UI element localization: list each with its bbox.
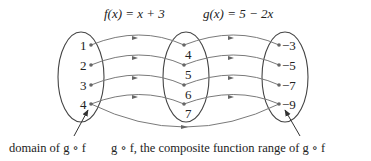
f-arrowheads xyxy=(132,36,138,99)
middle-value: 7 xyxy=(185,106,192,121)
range-value: −3 xyxy=(282,38,296,53)
domain-value: 1 xyxy=(80,38,87,53)
range-value: −9 xyxy=(282,97,296,112)
domain-value: 3 xyxy=(80,78,87,93)
g-arrowheads xyxy=(228,36,234,99)
composite-arrowhead xyxy=(181,125,188,129)
composite-function-diagram: f(x) = x + 3 g(x) = 5 − 2x xyxy=(0,0,371,161)
domain-value: 4 xyxy=(80,97,87,112)
range-value: −7 xyxy=(282,78,296,93)
range-labels: −3 −5 −7 −9 xyxy=(282,38,296,112)
domain-caption: domain of g ∘ f xyxy=(9,141,87,155)
domain-value: 2 xyxy=(80,58,87,73)
domain-points xyxy=(89,43,93,106)
range-points xyxy=(277,43,281,106)
g-function-title: g(x) = 5 − 2x xyxy=(203,6,273,21)
g-mappings xyxy=(184,35,279,104)
middle-value: 4 xyxy=(185,47,192,62)
composite-caption: g ∘ f, the composite function xyxy=(111,141,255,155)
f-function-title: f(x) = x + 3 xyxy=(104,6,165,21)
middle-value: 5 xyxy=(185,67,192,82)
domain-labels: 1 2 3 4 xyxy=(80,38,87,112)
domain-pointer-arrow xyxy=(74,110,88,136)
range-caption: range of g ∘ f xyxy=(258,141,326,155)
middle-value: 6 xyxy=(185,87,192,102)
range-value: −5 xyxy=(282,58,296,73)
